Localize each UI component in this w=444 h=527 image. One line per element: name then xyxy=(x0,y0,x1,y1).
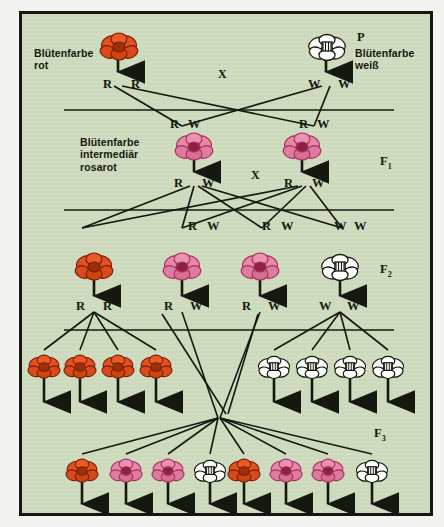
genotype-f2-2-w: W xyxy=(190,299,203,314)
genotype-f2-1-r1: R xyxy=(76,299,85,314)
flower-f2-white xyxy=(320,252,360,282)
genotype-f1-right-w: W xyxy=(312,176,325,191)
flower-f3-lower-right-white xyxy=(355,458,389,484)
gamete-f1-b-w: W xyxy=(281,219,294,234)
flower-f1-pink-left xyxy=(174,132,214,162)
flower-f3-white-2 xyxy=(295,354,329,380)
diagram-stage: Blütenfarbe rot Blütenfarbe weiß Blütenf… xyxy=(0,0,444,527)
genotype-p-white-allele-1: W xyxy=(308,77,321,92)
flower-f2-pink-2 xyxy=(240,252,280,282)
genotype-f2-4-w2: W xyxy=(347,299,360,314)
genotype-f2-3-r: R xyxy=(242,299,251,314)
flower-p-red xyxy=(99,32,139,62)
flower-f3-lower-left-pink-1 xyxy=(109,458,143,484)
flower-f3-red-2 xyxy=(63,354,97,380)
gamete-p-left-w: W xyxy=(188,117,201,132)
genotype-f1-left-w: W xyxy=(202,176,215,191)
flower-f2-pink-1 xyxy=(162,252,202,282)
caption-parent-white: Blütenfarbe weiß xyxy=(355,47,414,72)
genotype-p-red-allele-1: R xyxy=(103,77,112,92)
flower-f3-white-4 xyxy=(371,354,405,380)
generation-label-f2: F2 xyxy=(380,262,392,279)
genotype-f2-2-r: R xyxy=(164,299,173,314)
flower-f3-lower-right-pink-2 xyxy=(311,458,345,484)
gamete-f1-a-r: R xyxy=(188,219,197,234)
gamete-f1-c-w1: W xyxy=(334,219,347,234)
flower-f2-red xyxy=(74,252,114,282)
gamete-f1-b-r: R xyxy=(262,219,271,234)
cross-symbol-f1: X xyxy=(251,168,260,182)
genotype-f2-3-w: W xyxy=(268,299,281,314)
generation-label-f1: F1 xyxy=(380,154,392,171)
flower-f3-lower-left-pink-2 xyxy=(151,458,185,484)
flower-f3-lower-left-red xyxy=(65,458,99,484)
flower-f3-white-3 xyxy=(333,354,367,380)
gamete-p-right-r: R xyxy=(299,117,308,132)
cross-symbol-p: X xyxy=(218,67,227,81)
flower-p-white xyxy=(307,32,347,62)
gamete-p-right-w: W xyxy=(317,117,330,132)
genotype-f2-1-r2: R xyxy=(103,299,112,314)
gamete-f1-a-w: W xyxy=(207,219,220,234)
caption-parent-red: Blütenfarbe rot xyxy=(34,47,93,72)
flower-f3-lower-right-red xyxy=(227,458,261,484)
genotype-f1-right-r: R xyxy=(284,176,293,191)
gamete-p-left-r: R xyxy=(170,117,179,132)
flower-f3-red-4 xyxy=(139,354,173,380)
flower-f3-red-1 xyxy=(27,354,61,380)
flower-f3-lower-right-pink-1 xyxy=(269,458,303,484)
genotype-p-white-allele-2: W xyxy=(338,77,351,92)
generation-label-p: P xyxy=(357,30,365,45)
generation-label-f3: F3 xyxy=(374,426,386,443)
genotype-f2-4-w1: W xyxy=(319,299,332,314)
flower-f3-lower-left-white xyxy=(193,458,227,484)
genetics-diagram-panel: Blütenfarbe rot Blütenfarbe weiß Blütenf… xyxy=(19,11,433,516)
gamete-f1-c-w2: W xyxy=(354,219,367,234)
genotype-f1-left-r: R xyxy=(174,176,183,191)
caption-f1-pink: Blütenfarbe intermediär rosarot xyxy=(80,136,139,173)
genotype-p-red-allele-2: R xyxy=(131,77,140,92)
flower-f3-red-3 xyxy=(101,354,135,380)
flower-f1-pink-right xyxy=(282,132,322,162)
flower-f3-white-1 xyxy=(257,354,291,380)
